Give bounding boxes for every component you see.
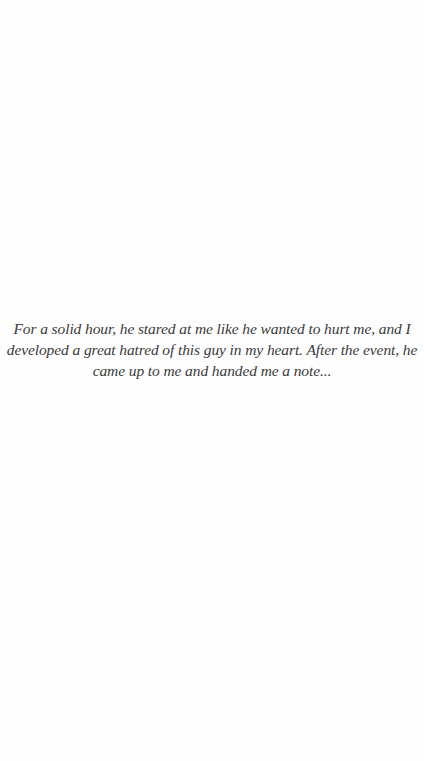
story-caption: For a solid hour, he stared at me like h… bbox=[0, 318, 424, 381]
story-page: For a solid hour, he stared at me like h… bbox=[0, 0, 424, 761]
caption-line-2: developed a great hatred of this guy in … bbox=[0, 339, 424, 360]
caption-line-1: For a solid hour, he stared at me like h… bbox=[0, 318, 424, 339]
caption-line-3: came up to me and handed me a note... bbox=[0, 360, 424, 381]
